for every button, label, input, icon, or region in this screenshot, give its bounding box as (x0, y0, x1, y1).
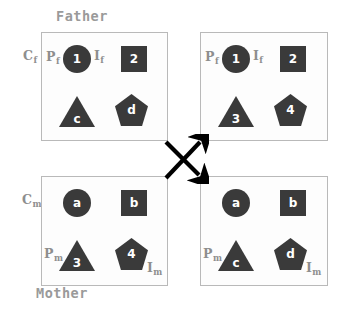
allele-triangle: 3 (218, 96, 254, 127)
allele-pentagon: d (115, 94, 148, 126)
chromosome-father-letter: C (23, 48, 33, 63)
locus-p-father-label-right: Pf (205, 49, 218, 64)
allele-square: b (121, 190, 147, 216)
locus-p-father-letter: P (46, 49, 55, 64)
allele-triangle: c (59, 96, 95, 127)
locus-i-father-subscript: f (100, 55, 104, 65)
locus-i-mother-subscript: m (153, 267, 162, 277)
crossover-arrows-icon (163, 134, 209, 184)
locus-p-mother-letter: P (44, 246, 53, 261)
locus-i-father-label-right: If (253, 48, 263, 63)
allele-circle: a (63, 189, 91, 217)
locus-i-mother-subscript: m (312, 267, 321, 277)
locus-p-father-subscript: f (56, 56, 60, 66)
allele-pentagon: d (274, 238, 307, 270)
chromosome-father-label: Cf (23, 48, 37, 63)
locus-i-father-letter: I (253, 48, 259, 63)
locus-p-father-subscript: f (215, 56, 219, 66)
box-mother-right[interactable]: Pm Im a b c d (200, 176, 328, 286)
mother-label: Mother (36, 285, 88, 301)
locus-i-father-subscript: f (259, 55, 263, 65)
allele-square: 2 (121, 46, 147, 72)
locus-p-mother-subscript: m (213, 253, 222, 263)
father-label: Father (56, 8, 108, 24)
box-father-left[interactable]: Pf If 1 2 c d (41, 32, 168, 141)
chromosome-mother-label: Cm (22, 192, 41, 207)
locus-i-mother-label-right: Im (306, 260, 321, 275)
locus-i-father-label-left: If (94, 48, 104, 63)
allele-circle: a (222, 189, 250, 217)
allele-circle: 1 (222, 45, 250, 73)
allele-square: 2 (280, 46, 306, 72)
chromosome-mother-letter: C (22, 192, 32, 207)
locus-i-mother-label-left: Im (147, 260, 162, 275)
allele-pentagon: 4 (274, 94, 307, 126)
locus-i-mother-letter: I (306, 260, 312, 275)
locus-p-mother-label-left: Pm (44, 246, 62, 261)
locus-p-mother-subscript: m (54, 253, 63, 263)
locus-p-father-label-left: Pf (46, 49, 59, 64)
chromosome-father-subscript: f (33, 55, 37, 65)
allele-circle: 1 (63, 45, 91, 73)
crossover-diagram: Father Cf Pf If 1 2 c d Pf If 1 2 3 4 Cm (0, 0, 346, 310)
locus-p-mother-label-right: Pm (203, 246, 221, 261)
allele-triangle: c (218, 240, 254, 271)
locus-i-mother-letter: I (147, 260, 153, 275)
allele-square: b (280, 190, 306, 216)
box-father-right[interactable]: Pf If 1 2 3 4 (200, 32, 328, 141)
locus-p-mother-letter: P (203, 246, 212, 261)
box-mother-left[interactable]: Pm Im a b 3 4 (41, 176, 168, 286)
locus-i-father-letter: I (94, 48, 100, 63)
allele-triangle: 3 (59, 240, 95, 271)
allele-pentagon: 4 (115, 238, 148, 270)
locus-p-father-letter: P (205, 49, 214, 64)
